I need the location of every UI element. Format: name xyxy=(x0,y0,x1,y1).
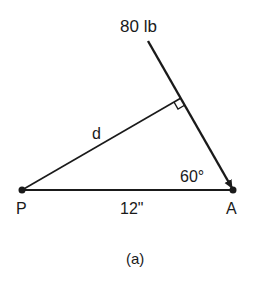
force-moment-diagram: 80 lb d 60° P 12" A (a) xyxy=(0,0,255,288)
distance-label: d xyxy=(92,125,101,142)
figure-caption: (a) xyxy=(126,250,144,267)
point-a-dot xyxy=(230,187,237,194)
angle-label: 60° xyxy=(180,168,204,185)
moment-arm-line xyxy=(22,98,181,190)
base-length-label: 12" xyxy=(120,200,143,217)
force-label: 80 lb xyxy=(120,17,157,36)
force-vector-arrow xyxy=(148,41,232,188)
point-p-dot xyxy=(19,187,26,194)
point-a-label: A xyxy=(226,200,237,217)
point-p-label: P xyxy=(16,200,27,217)
